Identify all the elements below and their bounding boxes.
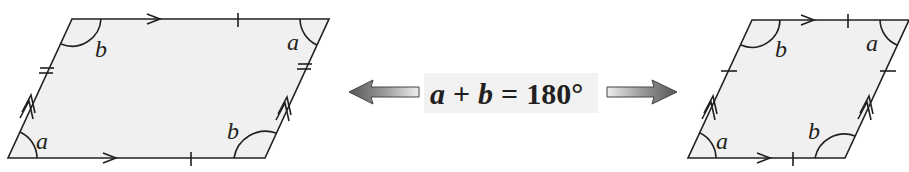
angle-label-a: a [716, 128, 728, 154]
angle-label-a: a [36, 128, 48, 154]
left-arrow-icon [349, 80, 419, 104]
equation-group: a+b=180° [349, 73, 677, 113]
left-parallelogram-shape [8, 19, 329, 158]
angle-label-b: b [808, 118, 820, 144]
parallelogram-angle-diagram: a b a b a+b=180° a b a b [0, 0, 909, 172]
angle-label-a: a [866, 30, 878, 56]
angle-label-b: b [95, 36, 107, 62]
angle-label-b: b [775, 36, 787, 62]
right-arrow-icon [607, 80, 677, 104]
equation-text: a+b=180° [430, 77, 583, 110]
angle-label-a: a [287, 29, 299, 55]
left-parallelogram: a b a b [8, 13, 329, 166]
right-parallelogram: a b a b [688, 14, 909, 166]
angle-label-b: b [227, 118, 239, 144]
